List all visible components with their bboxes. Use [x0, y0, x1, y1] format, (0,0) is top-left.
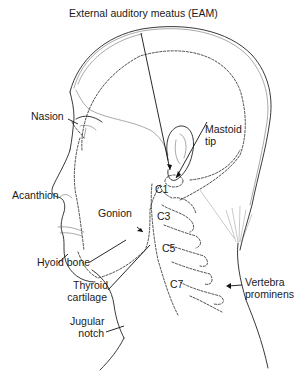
neck-back [237, 243, 268, 368]
label-c7: C7 [170, 278, 183, 290]
label-hyoid-bone: Hyoid bone [37, 256, 90, 268]
label-mastoid-line2: tip [205, 135, 216, 147]
label-vertebra-line1: Vertebra [245, 276, 285, 288]
head-neck-drawing [0, 0, 300, 373]
label-c1: C1 [155, 183, 168, 195]
label-jugular-line1: Jugular [70, 315, 104, 327]
anatomy-figure: External auditory meatus (EAM) Nasion Ma… [0, 0, 300, 373]
mandible-dashed [78, 185, 160, 278]
occipital-dashed [190, 150, 240, 180]
label-jugular-line2: notch [70, 327, 104, 339]
label-gonion: Gonion [98, 207, 132, 219]
label-mastoid-line1: Mastoid [205, 123, 242, 135]
ear [165, 126, 194, 187]
label-nasion: Nasion [31, 110, 64, 122]
label-thyroid-line1: Thyroid [73, 279, 106, 291]
arrowheads [137, 164, 231, 289]
label-thyroid-line2: cartilage [67, 291, 107, 303]
label-eam: External auditory meatus (EAM) [69, 7, 218, 19]
label-c5: C5 [162, 242, 175, 254]
label-c3: C3 [157, 210, 170, 222]
label-acanthion: Acanthion [12, 189, 59, 201]
label-vertebra-line2: prominens [245, 288, 294, 300]
trapezius-hatching [200, 190, 252, 244]
